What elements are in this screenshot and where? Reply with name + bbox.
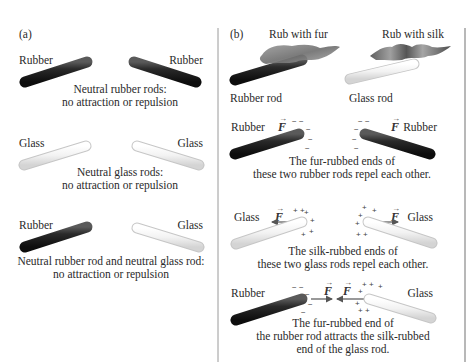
svg-text:− −: − − xyxy=(358,117,370,126)
rubber-rod xyxy=(235,134,299,154)
svg-text:− −: − − xyxy=(292,283,304,292)
svg-text:+: + xyxy=(372,206,377,215)
svg-text:−: − xyxy=(301,308,306,317)
glass-rod xyxy=(368,222,432,243)
b-row1-caption-line1: The fur-rubbed ends of xyxy=(289,155,395,167)
b-row1-right-label: Rubber xyxy=(403,121,437,133)
b-row2-caption-line2: these two glass rods repel each other. xyxy=(258,258,429,271)
a-row2-right-label: Glass xyxy=(177,137,203,149)
b-row1-caption-line2: these two rubber rods repel each other. xyxy=(253,168,431,181)
force-arrow-hat: → xyxy=(276,204,284,213)
b-row3-caption-line2: the rubber rod attracts the silk-rubbed xyxy=(256,330,430,342)
panel-b-label: (b) xyxy=(230,28,244,41)
svg-text:+: + xyxy=(378,282,383,291)
svg-text:−: − xyxy=(306,125,311,134)
a-row1-right-label: Rubber xyxy=(169,54,203,66)
svg-text:+: + xyxy=(355,219,360,228)
b-row3-caption-line1: The fur-rubbed end of xyxy=(292,317,394,329)
svg-text:−: − xyxy=(305,144,310,153)
svg-text:+: + xyxy=(310,216,315,225)
svg-text:−: − xyxy=(308,300,313,309)
svg-text:− −: − − xyxy=(292,117,304,126)
svg-text:+: + xyxy=(301,230,306,239)
electrostatics-figure: (a) Rubber Rubber Neutral rubber rods: n… xyxy=(0,0,466,362)
force-arrow-hat: → xyxy=(392,204,400,213)
svg-text:−: − xyxy=(354,144,359,153)
glass-rod-label: Glass rod xyxy=(349,92,393,104)
a-row3-caption-line2: no attraction or repulsion xyxy=(53,268,169,281)
a-row1-caption-line1: Neutral rubber rods: xyxy=(73,83,166,95)
svg-text:+ +: + + xyxy=(358,306,370,315)
svg-text:+: + xyxy=(358,287,363,296)
svg-text:+: + xyxy=(362,203,367,212)
a-row2-caption-line1: Neutral glass rods: xyxy=(77,166,163,179)
force-arrow-hat: → xyxy=(325,278,333,287)
svg-text:+: + xyxy=(309,227,314,236)
a-row3-caption-line1: Neutral rubber rod and neutral glass rod… xyxy=(17,255,204,268)
svg-text:−: − xyxy=(308,135,313,144)
svg-text:−: − xyxy=(354,125,359,134)
a-row2-caption-line2: no attraction or repulsion xyxy=(62,179,178,192)
svg-text:+ +: + + xyxy=(356,230,368,239)
b-row3-left-label: Rubber xyxy=(231,287,265,299)
glass-rod xyxy=(369,299,431,318)
force-arrow-hat: → xyxy=(279,114,287,123)
b-row2-caption-line1: The silk-rubbed ends of xyxy=(288,245,398,257)
a-row2-left-label: Glass xyxy=(19,137,45,149)
panel-a-label: (a) xyxy=(19,28,32,41)
rubber-rod xyxy=(365,134,430,154)
force-arrow-hat: → xyxy=(344,278,352,287)
force-arrow-hat: → xyxy=(392,114,400,123)
svg-text:−: − xyxy=(352,135,357,144)
rub-with-fur-label: Rub with fur xyxy=(269,28,328,40)
b-row1-left-label: Rubber xyxy=(231,121,265,133)
b-row2-right-label: Glass xyxy=(407,211,433,223)
b-row3-right-label: Glass xyxy=(407,287,433,299)
svg-text:+: + xyxy=(304,208,309,217)
b-row3-caption-line3: end of the glass rod. xyxy=(297,343,390,356)
a-row3-left-label: Rubber xyxy=(19,219,53,231)
a-row3-right-label: Glass xyxy=(177,219,203,231)
a-row1-caption-line2: no attraction or repulsion xyxy=(62,96,178,109)
svg-text:−: − xyxy=(305,290,310,299)
rub-with-silk-label: Rub with silk xyxy=(382,28,444,40)
silk-cloth-icon xyxy=(370,44,451,60)
svg-text:+ +: + + xyxy=(362,280,374,289)
b-row2-left-label: Glass xyxy=(234,211,260,223)
glass-rod xyxy=(236,222,302,244)
rubber-rod-label: Rubber rod xyxy=(230,92,282,104)
a-row1-left-label: Rubber xyxy=(19,54,53,66)
